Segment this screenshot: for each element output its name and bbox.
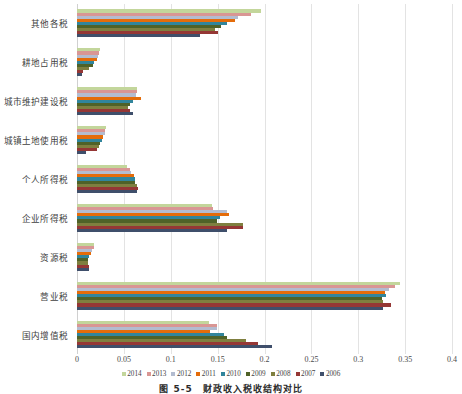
category-label: 资源税 <box>40 251 68 263</box>
category-label: 其他各税 <box>31 17 68 29</box>
legend-item[interactable]: 2006 <box>320 370 340 378</box>
legend-label: 2010 <box>226 370 240 378</box>
bar-group <box>77 82 452 121</box>
legend-label: 2013 <box>152 370 166 378</box>
legend-item[interactable]: 2009 <box>246 370 266 378</box>
bar-fill <box>77 112 133 115</box>
bar-fill <box>77 345 272 348</box>
legend-label: 2012 <box>177 370 191 378</box>
gridline <box>452 4 453 354</box>
bar-fill <box>77 73 82 76</box>
legend-swatch-icon <box>196 372 200 376</box>
legend-item[interactable]: 2010 <box>221 370 241 378</box>
bar <box>77 307 383 310</box>
legend-swatch-icon <box>147 372 151 376</box>
plot-area <box>77 4 452 354</box>
bar-fill <box>77 151 86 154</box>
value-tick-label: 0.15 <box>211 355 225 364</box>
value-tick-label: 0.35 <box>398 355 412 364</box>
bar-fill <box>77 307 383 310</box>
bar-fill <box>77 190 137 193</box>
legend-item[interactable]: 2007 <box>296 370 316 378</box>
value-tick-label: 0.05 <box>117 355 131 364</box>
bar-fill <box>77 229 227 232</box>
bar-group <box>77 315 452 354</box>
bar <box>77 190 137 193</box>
legend-item[interactable]: 2014 <box>122 370 142 378</box>
category-label: 耕地占用税 <box>22 56 68 68</box>
legend-item[interactable]: 2013 <box>147 370 167 378</box>
legend-label: 2014 <box>127 370 141 378</box>
category-label: 营业税 <box>40 290 68 302</box>
category-label: 城镇土地使用税 <box>4 134 68 146</box>
bar-fill <box>77 268 89 271</box>
value-axis-ticks: 00.050.10.150.20.250.30.350.4 <box>77 355 452 369</box>
value-tick-label: 0.3 <box>353 355 363 364</box>
legend-label: 2008 <box>276 370 290 378</box>
bar-group <box>77 43 452 82</box>
bar <box>77 73 82 76</box>
bar <box>77 34 200 37</box>
legend-item[interactable]: 2011 <box>196 370 216 378</box>
bar <box>77 112 133 115</box>
legend-item[interactable]: 2012 <box>171 370 191 378</box>
bar-fill <box>77 34 200 37</box>
bar <box>77 268 89 271</box>
category-label: 企业所得税 <box>22 212 68 224</box>
bar-group <box>77 121 452 160</box>
legend-item[interactable]: 2008 <box>271 370 291 378</box>
bar-group <box>77 4 452 43</box>
value-tick-label: 0.2 <box>260 355 270 364</box>
value-tick-label: 0 <box>75 355 79 364</box>
legend-label: 2007 <box>301 370 315 378</box>
legend-swatch-icon <box>171 372 175 376</box>
legend-swatch-icon <box>271 372 275 376</box>
bar-group <box>77 198 452 237</box>
value-tick-label: 0.1 <box>166 355 176 364</box>
bar-group <box>77 160 452 199</box>
value-tick-label: 0.25 <box>304 355 318 364</box>
legend-label: 2009 <box>251 370 265 378</box>
figure-caption: 图 5-5 财政收入税收结构对比 <box>0 382 462 394</box>
legend-swatch-icon <box>296 372 300 376</box>
category-label: 国内增值税 <box>22 329 68 341</box>
chart-legend: 201420132012201120102009200820072006 <box>0 368 462 380</box>
legend-label: 2006 <box>326 370 340 378</box>
legend-swatch-icon <box>246 372 250 376</box>
legend-label: 2011 <box>202 370 216 378</box>
value-tick-label: 0.4 <box>447 355 457 364</box>
bar-group <box>77 237 452 276</box>
bar <box>77 229 227 232</box>
category-label: 城市维护建设税 <box>4 95 68 107</box>
bar <box>77 151 86 154</box>
bar <box>77 345 272 348</box>
bar-chart: 其他各税耕地占用税城市维护建设税城镇土地使用税个人所得税企业所得税资源税营业税国… <box>0 0 462 394</box>
category-axis: 其他各税耕地占用税城市维护建设税城镇土地使用税个人所得税企业所得税资源税营业税国… <box>0 4 72 354</box>
category-label: 个人所得税 <box>22 173 68 185</box>
bar-group <box>77 276 452 315</box>
legend-swatch-icon <box>320 372 324 376</box>
legend-swatch-icon <box>221 372 225 376</box>
legend-swatch-icon <box>122 372 126 376</box>
